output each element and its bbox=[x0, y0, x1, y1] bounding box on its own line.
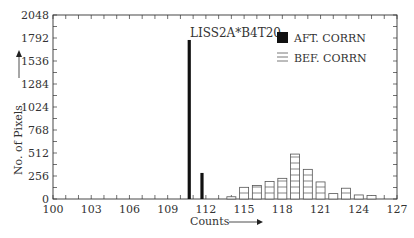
bar-bef-corrn bbox=[329, 194, 338, 199]
histogram-chart: 1001031061091121151181211241270256512768… bbox=[0, 0, 414, 238]
bar-aft-corrn bbox=[188, 40, 191, 199]
bar-outline bbox=[342, 188, 351, 199]
bar-bef-corrn bbox=[354, 195, 363, 199]
bar-outline bbox=[316, 182, 325, 199]
bar-bef-corrn bbox=[265, 181, 274, 199]
y-tick-label: 2048 bbox=[21, 9, 49, 22]
x-tick-label: 124 bbox=[348, 203, 369, 216]
bar-bef-corrn bbox=[252, 186, 261, 199]
x-tick-label: 121 bbox=[310, 203, 331, 216]
bar-outline bbox=[354, 195, 363, 199]
legend-swatch-aft bbox=[277, 32, 288, 43]
y-axis-label: No. of Pixels bbox=[12, 105, 25, 175]
bar-bef-corrn bbox=[278, 178, 287, 199]
annotation-label: LISS2A*B4T20 bbox=[190, 26, 281, 40]
bar-bef-corrn bbox=[303, 169, 312, 199]
bar-aft-corrn bbox=[200, 173, 203, 199]
y-tick-label: 1284 bbox=[21, 78, 49, 91]
bar-bef-corrn bbox=[240, 187, 249, 199]
bar-bef-corrn bbox=[291, 154, 300, 199]
x-tick-label: 103 bbox=[81, 203, 102, 216]
x-tick-label: 106 bbox=[119, 203, 140, 216]
x-tick-label: 115 bbox=[234, 203, 255, 216]
y-tick-label: 1536 bbox=[21, 55, 49, 68]
x-tick-label: 109 bbox=[157, 203, 178, 216]
bar-bef-corrn bbox=[316, 182, 325, 199]
bar-outline bbox=[265, 181, 274, 199]
bar-outline bbox=[227, 197, 236, 199]
legend-label-aft: AFT. CORRN bbox=[293, 32, 366, 45]
y-tick-label: 256 bbox=[28, 170, 49, 183]
y-tick-label: 0 bbox=[42, 193, 49, 206]
bar-outline bbox=[291, 154, 300, 199]
bar-outline bbox=[367, 195, 376, 199]
y-tick-label: 512 bbox=[28, 147, 49, 160]
x-axis-arrow bbox=[229, 219, 263, 225]
x-tick-label: 127 bbox=[387, 203, 408, 216]
y-tick-label: 1024 bbox=[21, 101, 49, 114]
legend-label-bef: BEF. CORRN bbox=[294, 52, 367, 65]
y-tick-label: 1792 bbox=[21, 32, 49, 45]
bar-outline bbox=[303, 169, 312, 199]
bar-bef-corrn bbox=[367, 195, 376, 199]
legend: AFT. CORRN BEF. CORRN bbox=[277, 32, 367, 65]
legend-swatch-bef bbox=[277, 53, 288, 61]
bar-outline bbox=[329, 194, 338, 199]
bar-bef-corrn bbox=[227, 197, 236, 199]
x-tick-label: 118 bbox=[272, 203, 293, 216]
bar-outline bbox=[278, 178, 287, 199]
x-axis-label: Counts bbox=[190, 215, 230, 228]
bar-bef-corrn bbox=[342, 188, 351, 199]
y-tick-label: 768 bbox=[28, 124, 49, 137]
bar-outline bbox=[252, 186, 261, 199]
